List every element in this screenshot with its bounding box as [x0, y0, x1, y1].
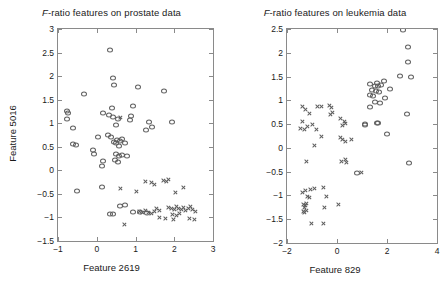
- data-point-circle: [135, 84, 141, 89]
- x-tick-label: 0: [335, 247, 340, 256]
- y-tick-mark-right: [209, 76, 213, 77]
- data-point-circle: [362, 123, 368, 128]
- x-tick-mark-top: [387, 29, 388, 33]
- data-point-circle: [375, 121, 381, 126]
- y-tick-mark-right: [433, 124, 437, 125]
- data-point-cross: [157, 215, 162, 220]
- y-axis-title-prostate: Feature 5016: [7, 104, 18, 164]
- y-tick-mark: [58, 123, 62, 124]
- data-point-circle: [370, 93, 376, 98]
- data-point-circle: [397, 73, 403, 78]
- x-tick-mark-top: [136, 29, 137, 33]
- y-tick-mark-right: [433, 195, 437, 196]
- y-tick-mark-right: [433, 219, 437, 220]
- data-point-circle: [400, 29, 406, 32]
- y-tick-label: 1.5: [271, 72, 283, 81]
- y-tick-mark: [287, 53, 291, 54]
- x-tick-label: 1: [133, 245, 138, 254]
- data-point-cross: [312, 143, 317, 148]
- data-point-circle: [146, 119, 152, 124]
- y-tick-label: 1: [49, 119, 54, 128]
- panel-leukemia: F-ratio features on leukemia data −2−1.5…: [223, 0, 447, 286]
- data-point-cross: [300, 119, 305, 124]
- data-point-cross: [181, 185, 186, 190]
- data-point-circle: [81, 92, 87, 97]
- x-tick-mark-top: [97, 29, 98, 33]
- x-tick-mark-top: [437, 29, 438, 33]
- data-point-circle: [406, 160, 412, 165]
- y-tick-mark: [287, 243, 291, 244]
- y-tick-mark-right: [209, 100, 213, 101]
- data-point-cross: [305, 124, 310, 129]
- data-point-circle: [64, 117, 70, 122]
- x-tick-label: 0: [94, 245, 99, 254]
- y-tick-mark: [287, 172, 291, 173]
- x-tick-mark-top: [337, 29, 338, 33]
- x-tick-label: 2: [385, 247, 390, 256]
- x-tick-mark: [213, 237, 214, 241]
- x-tick-mark: [437, 239, 438, 243]
- y-tick-mark-right: [209, 217, 213, 218]
- data-point-cross: [143, 179, 148, 184]
- title-text: -ratio features on prostate data: [48, 7, 181, 18]
- y-tick-mark: [287, 219, 291, 220]
- data-point-cross: [324, 194, 329, 199]
- data-point-circle: [382, 95, 388, 100]
- y-tick-label: 2.5: [42, 48, 54, 57]
- y-tick-label: 0.5: [271, 120, 283, 129]
- data-point-cross: [193, 209, 198, 214]
- data-point-cross: [166, 177, 171, 182]
- data-point-circle: [404, 111, 410, 116]
- y-tick-label: −1.5: [37, 237, 54, 246]
- x-tick-label: −1: [53, 245, 63, 254]
- y-tick-mark: [287, 100, 291, 101]
- x-tick-mark: [337, 239, 338, 243]
- data-point-circle: [169, 120, 175, 125]
- y-tick-mark: [58, 217, 62, 218]
- x-tick-mark: [387, 239, 388, 243]
- y-tick-mark: [58, 147, 62, 148]
- data-point-cross: [134, 189, 139, 194]
- y-tick-mark: [287, 77, 291, 78]
- plot-area-prostate: [58, 29, 213, 241]
- plot-frame-leukemia: −2−1.5−1−0.500.511.522.5−2024: [286, 28, 438, 244]
- data-point-circle: [161, 89, 167, 94]
- data-point-cross: [152, 209, 157, 214]
- y-tick-mark: [58, 100, 62, 101]
- data-point-cross: [118, 115, 123, 120]
- data-point-cross: [312, 186, 317, 191]
- data-point-cross: [307, 111, 312, 116]
- data-point-circle: [91, 152, 97, 157]
- data-point-circle: [367, 104, 373, 109]
- y-tick-label: −1: [44, 213, 54, 222]
- y-tick-mark: [58, 194, 62, 195]
- figure-container: F-ratio features on prostate data −1.5−1…: [0, 0, 447, 286]
- panel-title-prostate: F-ratio features on prostate data: [0, 7, 223, 18]
- data-point-cross: [359, 170, 364, 175]
- y-tick-mark-right: [209, 147, 213, 148]
- data-point-circle: [111, 83, 117, 88]
- data-point-circle: [130, 209, 136, 214]
- data-point-cross: [304, 159, 309, 164]
- y-tick-label: −1: [273, 191, 283, 200]
- data-point-cross: [118, 186, 123, 191]
- x-tick-mark: [174, 237, 175, 241]
- data-point-circle: [113, 123, 119, 128]
- y-tick-mark: [58, 76, 62, 77]
- data-point-circle: [408, 74, 414, 79]
- data-point-cross: [122, 222, 127, 227]
- data-point-cross: [171, 217, 176, 222]
- data-point-circle: [109, 106, 115, 111]
- x-tick-mark: [287, 239, 288, 243]
- x-tick-mark: [58, 237, 59, 241]
- data-point-circle: [65, 111, 71, 116]
- y-tick-label: −1.5: [266, 215, 283, 224]
- y-tick-mark: [287, 124, 291, 125]
- data-point-cross: [344, 160, 349, 165]
- x-tick-label: −2: [282, 247, 292, 256]
- y-tick-mark-right: [209, 194, 213, 195]
- data-point-cross: [328, 112, 333, 117]
- data-point-cross: [319, 104, 324, 109]
- y-tick-mark-right: [433, 243, 437, 244]
- y-tick-mark: [58, 170, 62, 171]
